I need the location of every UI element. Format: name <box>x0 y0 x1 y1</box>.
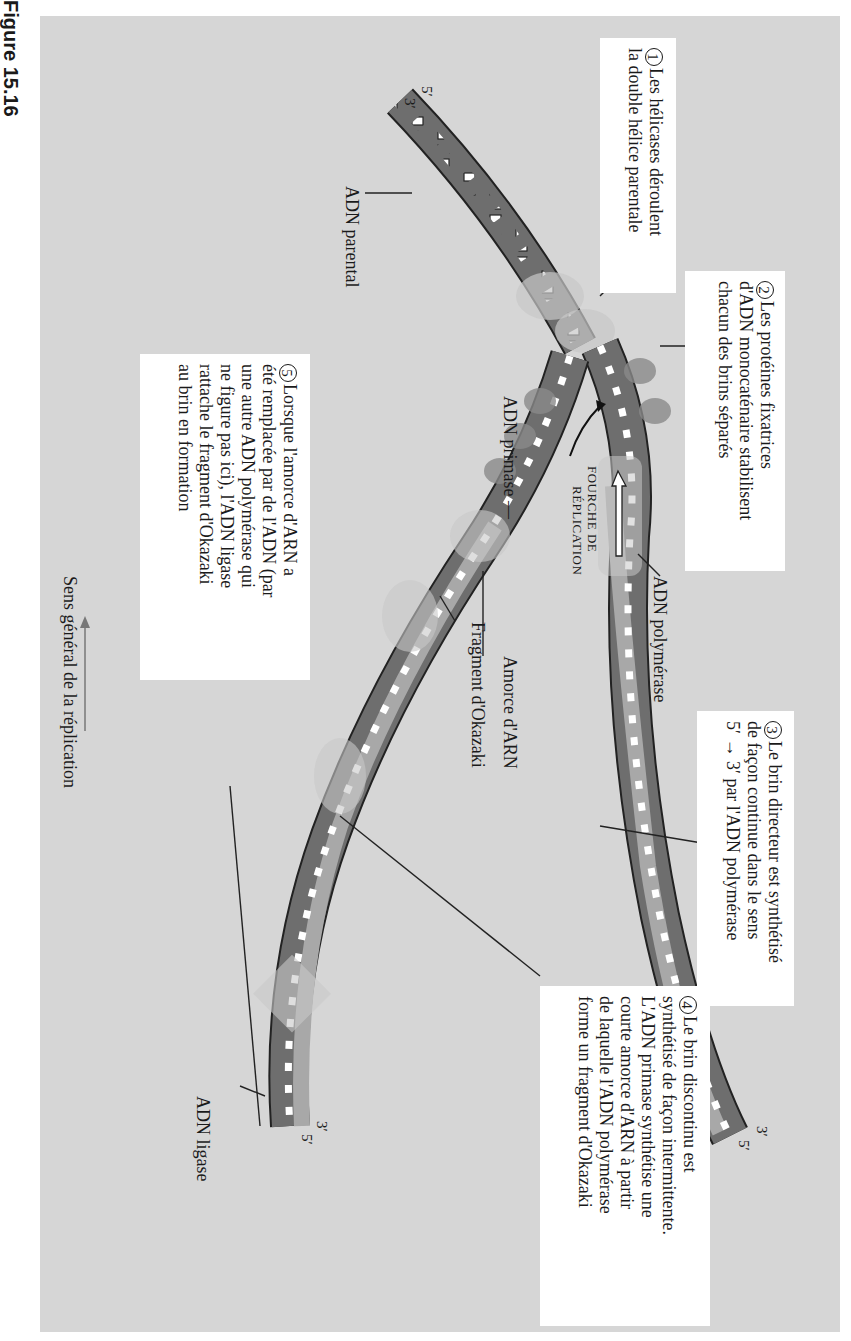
step-3-line: 5′ → 3′ par l'ADN polymérase <box>722 721 743 963</box>
step-5-line: une autre ADN polymérase qui <box>237 364 258 598</box>
step-3-line: Le brin directeur est synthétisé <box>765 741 785 963</box>
step-1-number: 1 <box>645 48 663 66</box>
end-label-3prime-leading: 3′ <box>753 1126 770 1137</box>
dna-polymerase-lagging <box>382 580 438 652</box>
end-label-5prime-lagging: 5′ <box>298 1134 315 1145</box>
step-4-line: forme un fragment d'Okazaki <box>574 996 595 1235</box>
step-1-box: 1Les hélicases déroulent la double hélic… <box>600 38 676 293</box>
end-label-3prime-top: 3′ <box>401 98 418 109</box>
step-3-number: 3 <box>764 721 782 739</box>
step-4-line: synthétisé de façon intermittente. <box>658 996 679 1235</box>
figure-label: Figure 15.16 <box>2 0 42 210</box>
step-4-line: de laquelle l'ADN polymérase <box>595 996 616 1235</box>
ssb-protein <box>524 388 556 414</box>
step-1-line: Les hélicases déroulent <box>646 68 666 236</box>
label-dna-ligase: ADN ligase <box>192 1096 213 1181</box>
step-5-line: rattache le fragment d'Okazaki <box>195 364 216 598</box>
end-label-3prime-lagging: 3′ <box>313 1121 330 1132</box>
figure-number: Figure 15.16 <box>0 0 22 117</box>
step-4-box: 4Le brin discontinu est synthétisé de fa… <box>540 986 710 1326</box>
step-5-number: 5 <box>279 364 297 382</box>
parental-duplex <box>400 101 615 353</box>
step-2-line: Les protéines fixatrices <box>757 301 777 469</box>
step-5-line: ne figure pas ici), l'ADN ligase <box>216 364 237 598</box>
end-label-5prime-top: 5′ <box>418 86 435 97</box>
label-parental-dna: ADN parental <box>341 186 362 287</box>
label-dna-polymerase: ADN polymérase <box>649 576 670 702</box>
step-3-line: de façon continue dans le sens <box>743 721 764 963</box>
label-okazaki-fragment: Fragment d'Okazaki <box>467 622 488 768</box>
diagram-panel: 1Les hélicases déroulent la double hélic… <box>40 16 840 1332</box>
step-4-line: L'ADN primase synthétise une <box>637 996 658 1235</box>
label-replication-direction: Sens général de la réplication <box>59 576 80 788</box>
step-4-line: courte amorce d'ARN à partir <box>616 996 637 1235</box>
dna-ligase-protein <box>253 955 331 1033</box>
step-5-line: Lorsque l'amorce d'ARN a <box>280 384 300 576</box>
step-2-box: 2Les protéines fixatrices d'ADN monocaté… <box>685 271 785 571</box>
step-2-line: chacun des brins séparés <box>714 281 735 520</box>
step-5-line: été remplacée par de l'ADN (par <box>258 364 279 598</box>
step-4-line: Le brin discontinu est <box>680 1016 700 1172</box>
direction-arrow-icon <box>80 616 90 628</box>
label-dna-primase: ADN primase — <box>499 396 520 519</box>
step-3-box: 3Le brin directeur est synthétisé de faç… <box>697 711 794 1006</box>
end-label-5prime-leading: 5′ <box>735 1140 752 1151</box>
step-2-line: d'ADN monocaténaire stabilisent <box>735 281 756 520</box>
step-1-line: la double hélice parentale <box>624 48 645 236</box>
label-fork-line1: FOURCHE DE <box>584 466 600 552</box>
step-4-number: 4 <box>679 996 697 1014</box>
step-2-number: 2 <box>756 281 774 299</box>
label-fork-line2: RÉPLICATION <box>569 486 585 575</box>
step-5-line: au brin en formation <box>174 364 195 598</box>
step-5-box: 5Lorsque l'amorce d'ARN a été remplacée … <box>140 354 310 680</box>
label-rna-primer: Amorce d'ARN <box>499 656 520 769</box>
